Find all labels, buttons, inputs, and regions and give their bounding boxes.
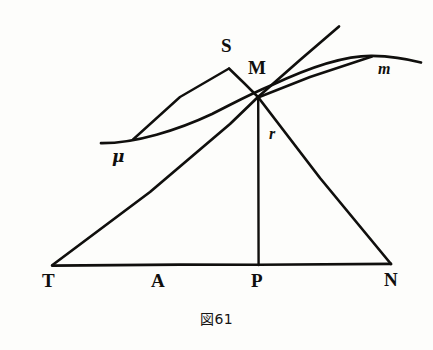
figure-caption: 図61 (0, 308, 433, 328)
label-M: M (248, 58, 266, 77)
label-N: N (384, 270, 398, 289)
label-A: A (151, 271, 165, 290)
label-S: S (221, 36, 232, 55)
baseline-segment-TN (52, 264, 391, 266)
label-m: m (378, 61, 390, 77)
label-r: r (269, 126, 275, 142)
label-P: P (251, 271, 263, 290)
segment-M-m (258, 57, 372, 98)
label-mu: μ (112, 148, 124, 165)
figure-61: S M m r μ T A P N 図61 (0, 0, 433, 350)
figure-drawing (0, 0, 433, 350)
segment-S-mu (133, 69, 229, 140)
label-T: T (42, 271, 55, 290)
normal-segment-M-N (258, 97, 391, 264)
